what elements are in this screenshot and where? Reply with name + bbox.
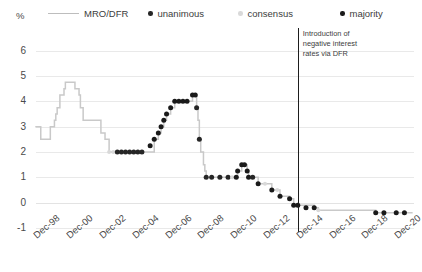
x-axis-tick-label: Dec-16 bbox=[327, 212, 358, 240]
x-axis-tick-label: Dec-98 bbox=[31, 212, 62, 240]
x-axis-tick-label: Dec-20 bbox=[392, 212, 422, 240]
x-axis-tick-label: Dec-18 bbox=[359, 212, 390, 240]
x-axis-tick-label: Dec-14 bbox=[294, 212, 325, 240]
x-axis-tick-label: Dec-10 bbox=[228, 212, 259, 240]
x-axis-tick-label: Dec-04 bbox=[130, 212, 161, 240]
x-axis-tick-label: Dec-02 bbox=[97, 212, 128, 240]
x-axis-tick-label: Dec-08 bbox=[195, 212, 226, 240]
x-axis: Dec-98Dec-00Dec-02Dec-04Dec-06Dec-08Dec-… bbox=[0, 0, 422, 272]
x-axis-tick-label: Dec-12 bbox=[261, 212, 292, 240]
chart-root: MRO/DFRunanimousconsensusmajority % 6543… bbox=[0, 0, 422, 272]
x-axis-tick-label: Dec-00 bbox=[64, 212, 95, 240]
x-axis-tick-label: Dec-06 bbox=[163, 212, 194, 240]
